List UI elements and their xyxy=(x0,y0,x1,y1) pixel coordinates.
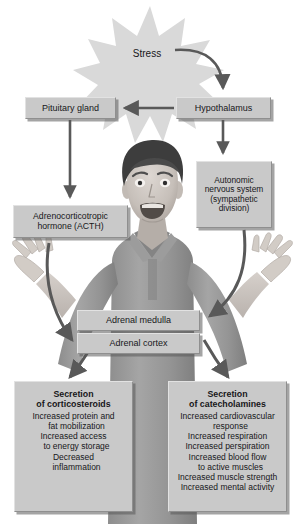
node-autonomic-line-4: division) xyxy=(219,203,250,213)
list-item: Increased cardiovascular xyxy=(172,411,283,421)
diagram-canvas: Stress xyxy=(0,0,296,524)
outcome-corticosteroids-heading-line-2: of corticosteroids xyxy=(36,399,110,409)
node-adrenal-medulla-label: Adrenal medulla xyxy=(106,315,171,325)
list-item: Increased access xyxy=(18,431,129,441)
outcome-corticosteroids-list: Increased protein and fat mobilization I… xyxy=(18,411,129,472)
arrow-cortex-to-corticosteroids xyxy=(70,352,88,377)
list-item: Increased mental activity xyxy=(172,482,283,492)
node-pituitary-gland-label: Pituitary gland xyxy=(42,103,99,113)
list-item: Increased blood flow xyxy=(172,452,283,462)
node-acth[interactable]: Adrenocorticotropic hormone (ACTH) xyxy=(13,205,128,238)
node-adrenal-medulla[interactable]: Adrenal medulla xyxy=(77,310,200,331)
outcome-catecholamines[interactable]: Secretion of catecholamines Increased ca… xyxy=(168,381,287,512)
node-autonomic-nervous-system[interactable]: Autonomic nervous system (sympathetic di… xyxy=(196,161,272,228)
node-autonomic-label-wrap: Autonomic nervous system (sympathetic di… xyxy=(205,176,264,214)
outcome-catecholamines-heading: Secretion of catecholamines xyxy=(172,389,283,410)
list-item: inflammation xyxy=(18,462,129,472)
list-item: to energy storage xyxy=(18,441,129,451)
list-item: Increased perspiration xyxy=(172,441,283,451)
arrow-medulla-to-catecholamines xyxy=(204,340,228,377)
list-item: Increased respiration xyxy=(172,431,283,441)
node-hypothalamus-label: Hypothalamus xyxy=(195,103,253,113)
list-item: Increased protein and xyxy=(18,411,129,421)
node-pituitary-gland[interactable]: Pituitary gland xyxy=(25,97,116,119)
list-item: Decreased xyxy=(18,452,129,462)
outcome-corticosteroids-heading: Secretion of corticosteroids xyxy=(18,389,129,410)
node-adrenal-cortex[interactable]: Adrenal cortex xyxy=(77,333,200,354)
list-item: to active muscles xyxy=(172,462,283,472)
outcome-catecholamines-heading-line-2: of catecholamines xyxy=(189,399,266,409)
node-hypothalamus[interactable]: Hypothalamus xyxy=(176,97,271,119)
node-adrenal-cortex-label: Adrenal cortex xyxy=(109,338,167,348)
node-acth-line-1: Adrenocorticotropic xyxy=(33,211,108,221)
node-acth-line-2: hormone (ACTH) xyxy=(37,221,103,231)
list-item: response xyxy=(172,421,283,431)
outcome-corticosteroids-heading-line-1: Secretion xyxy=(53,389,93,399)
list-item: fat mobilization xyxy=(18,421,129,431)
arrow-acth-to-adrenal-cortex xyxy=(47,243,72,340)
outcome-catecholamines-list: Increased cardiovascular response Increa… xyxy=(172,411,283,493)
arrow-stress-to-hypothalamus xyxy=(175,50,223,88)
outcome-corticosteroids[interactable]: Secretion of corticosteroids Increased p… xyxy=(14,381,133,512)
arrow-autonomic-to-adrenal-medulla xyxy=(210,230,245,316)
outcome-catecholamines-heading-line-1: Secretion xyxy=(207,389,247,399)
list-item: Increased muscle strength xyxy=(172,472,283,482)
node-acth-label-wrap: Adrenocorticotropic hormone (ACTH) xyxy=(33,212,108,231)
